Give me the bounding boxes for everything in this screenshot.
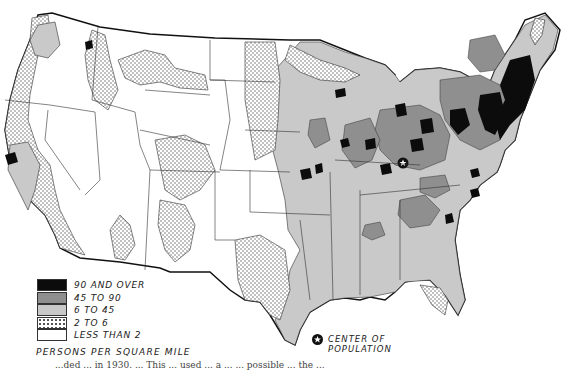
- legend-swatch-dotted: [37, 317, 67, 329]
- legend-label: 90 AND OVER: [74, 280, 145, 290]
- legend-item-less-than-2: LESS THAN 2: [37, 329, 145, 342]
- legend-swatch-white: [37, 329, 67, 341]
- center-of-population-marker: [398, 158, 409, 169]
- legend-title: PERSONS PER SQUARE MILE: [36, 347, 191, 357]
- legend: 90 AND OVER 45 TO 90 6 TO 45 2 TO 6 LESS…: [37, 279, 145, 342]
- legend-label: 6 TO 45: [74, 305, 115, 315]
- legend-label: 45 TO 90: [74, 293, 122, 303]
- legend-item-45-to-90: 45 TO 90: [37, 292, 145, 305]
- region-2-to-6-texas: [235, 235, 290, 320]
- legend-swatch-black: [37, 279, 67, 291]
- center-of-population-legend: CENTER OF POPULATION: [312, 334, 392, 354]
- legend-label: LESS THAN 2: [74, 330, 141, 340]
- legend-item-90-and-over: 90 AND OVER: [37, 279, 145, 292]
- star-in-circle-icon: [312, 334, 323, 345]
- caption-text: ...ded ... in 1930. ... This ... used ..…: [55, 360, 325, 370]
- legend-item-6-to-45: 6 TO 45: [37, 304, 145, 317]
- legend-label: 2 TO 6: [74, 318, 109, 328]
- legend-swatch-dark-gray: [37, 292, 67, 304]
- center-label-line2: POPULATION: [328, 344, 392, 354]
- center-label-line1: CENTER OF: [328, 334, 392, 344]
- legend-swatch-light-gray: [37, 304, 67, 316]
- legend-item-2-to-6: 2 TO 6: [37, 317, 145, 330]
